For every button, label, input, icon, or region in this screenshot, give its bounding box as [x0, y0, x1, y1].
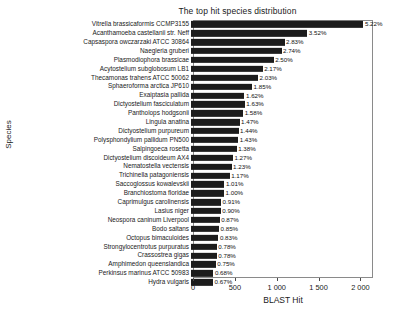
species-tick-label: Dictyostelium purpureum	[0, 128, 191, 134]
bar-track: 2.83%	[191, 38, 415, 47]
bar-value-label: 1.23%	[233, 164, 251, 170]
x-axis-tick-label: 1 000	[267, 283, 286, 292]
species-tick-label: Trichinella patagoniensis	[0, 172, 191, 178]
bar-row: Plasmodiophora brassicae2.50%	[0, 56, 415, 65]
bar-row: Pantholops hodgsonii1.58%	[0, 109, 415, 118]
bar-rows: Vitrella brassicaformis CCMP31555.22%Aca…	[0, 20, 415, 278]
bar-row: Salpingoeca rosetta1.38%	[0, 144, 415, 153]
bar-row: Thecamonas trahens ATCC 500622.03%	[0, 73, 415, 82]
species-tick-label: Thecamonas trahens ATCC 50062	[0, 75, 191, 81]
bar-track: 1.47%	[191, 118, 415, 127]
species-tick-label: Strongylocentrotus purpuratus	[0, 244, 191, 250]
bar-track: 1.00%	[191, 189, 415, 198]
chart-title: The top hit species distribution	[0, 6, 415, 16]
bar-value-label: 5.22%	[365, 21, 383, 27]
bar-track: 1.85%	[191, 82, 415, 91]
bar-track: 0.85%	[191, 224, 415, 233]
bar-track: 2.17%	[191, 64, 415, 73]
species-tick-label: Perkinsus marinus ATCC 50983	[0, 270, 191, 276]
bar-value-label: 0.87%	[221, 217, 239, 223]
x-axis-tick-label: 500	[229, 283, 241, 292]
bar	[191, 244, 217, 250]
species-tick-label: Vitrella brassicaformis CCMP3155	[0, 21, 191, 27]
bar-row: Naegleria gruberi2.74%	[0, 47, 415, 56]
bar	[191, 270, 213, 276]
bar-value-label: 2.17%	[264, 66, 282, 72]
bar	[191, 155, 233, 161]
bar-row: Crassostrea gigas0.78%	[0, 251, 415, 260]
bar-track: 2.50%	[191, 56, 415, 65]
bar-track: 1.17%	[191, 171, 415, 180]
x-axis-label: BLAST Hit	[193, 295, 373, 305]
bar-value-label: 2.83%	[286, 39, 304, 45]
bar-row: Nematostella vectensis1.23%	[0, 162, 415, 171]
bar-track: 0.78%	[191, 251, 415, 260]
species-tick-label: Bodo saltans	[0, 226, 191, 232]
bar-value-label: 0.90%	[222, 208, 240, 214]
bar-value-label: 2.50%	[275, 57, 293, 63]
bar-row: Acanthamoeba castellanii str. Neff3.52%	[0, 29, 415, 38]
bar-value-label: 2.03%	[260, 75, 278, 81]
bar-chart: The top hit species distribution Species…	[0, 0, 415, 319]
bar-row: Polysphondylium pallidum PN5001.43%	[0, 136, 415, 145]
species-tick-label: Dictyostelium fasciculatum	[0, 101, 191, 107]
bar-row: Sphaeroforma arctica JP6101.85%	[0, 82, 415, 91]
x-axis-tick	[319, 278, 320, 281]
bar-row: Perkinsus marinus ATCC 509830.68%	[0, 269, 415, 278]
species-tick-label: Octopus bimaculoides	[0, 235, 191, 241]
bar	[191, 164, 232, 170]
bar-row: Dictyostelium fasciculatum1.63%	[0, 100, 415, 109]
bar-row: Dictyostelium purpureum1.44%	[0, 127, 415, 136]
bar-row: Octopus bimaculoides0.83%	[0, 233, 415, 242]
bar	[191, 226, 219, 232]
bar	[191, 119, 240, 125]
species-tick-label: Branchiostoma floridae	[0, 190, 191, 196]
bar	[191, 84, 252, 90]
species-tick-label: Acanthamoeba castellanii str. Neff	[0, 30, 191, 36]
bar-track: 0.67%	[191, 278, 415, 287]
bar	[191, 252, 217, 258]
bar	[191, 48, 282, 54]
bar	[191, 101, 245, 107]
bar-row: Trichinella patagoniensis1.17%	[0, 171, 415, 180]
bar-row: Saccoglossus kowalevskii1.01%	[0, 180, 415, 189]
x-axis-tick	[277, 278, 278, 281]
bar-row: Capsaspora owczarzaki ATCC 308642.83%	[0, 38, 415, 47]
x-axis: 05001 0001 5002 000	[193, 278, 373, 279]
bar	[191, 92, 244, 98]
bar-row: Branchiostoma floridae1.00%	[0, 189, 415, 198]
bar-value-label: 0.83%	[220, 235, 238, 241]
bar-value-label: 1.17%	[231, 172, 249, 178]
bar-track: 3.52%	[191, 29, 415, 38]
bar-track: 1.38%	[191, 144, 415, 153]
bar-value-label: 1.47%	[241, 119, 259, 125]
species-tick-label: Saccoglossus kowalevskii	[0, 181, 191, 187]
bar	[191, 57, 274, 63]
x-axis-tick	[360, 278, 361, 281]
bar	[191, 172, 230, 178]
bar-row: Acytostelium subglobosum LB12.17%	[0, 64, 415, 73]
species-tick-label: Dictyostelium discoideum AX4	[0, 155, 191, 161]
bar-row: Amphimedon queenslandica0.75%	[0, 260, 415, 269]
bar	[191, 181, 224, 187]
x-axis-tick-label: 0	[191, 283, 195, 292]
bar-track: 1.23%	[191, 162, 415, 171]
species-tick-label: Plasmodiophora brassicae	[0, 57, 191, 63]
bar	[191, 110, 243, 116]
bar-track: 1.58%	[191, 109, 415, 118]
bar	[191, 199, 221, 205]
bar-track: 0.75%	[191, 260, 415, 269]
bar	[191, 66, 263, 72]
species-tick-label: Caprimulgus carolinensis	[0, 199, 191, 205]
bar-row: Neospora caninum Liverpool0.87%	[0, 216, 415, 225]
bar-value-label: 1.38%	[238, 146, 256, 152]
bar-value-label: 1.43%	[240, 137, 258, 143]
bar-track: 0.87%	[191, 216, 415, 225]
bar-value-label: 0.68%	[215, 270, 233, 276]
bar-row: Dictyostelium discoideum AX41.27%	[0, 153, 415, 162]
bar	[191, 217, 220, 223]
bar-row: Exaiptasia pallida1.62%	[0, 91, 415, 100]
bar-track: 1.27%	[191, 153, 415, 162]
bar	[191, 128, 239, 134]
species-tick-label: Sphaeroforma arctica JP610	[0, 83, 191, 89]
